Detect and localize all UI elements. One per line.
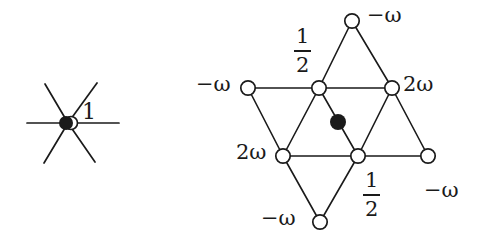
node-label-right-far: −ω: [424, 180, 459, 201]
node-label-bottom: −ω: [261, 208, 296, 229]
left-figure-label-one: 1: [82, 99, 96, 124]
edge-top-centerupper: [319, 21, 352, 88]
filled-dot-center: [330, 114, 346, 130]
node-label-top: −ω: [367, 5, 402, 26]
node-bottom: [313, 215, 327, 229]
node-center-lower: [351, 149, 365, 163]
right-figure-nodes: [241, 14, 435, 229]
half-lower-numerator: 1: [363, 170, 380, 191]
diagram-svg: [0, 0, 490, 244]
left-figure-group: [27, 83, 119, 163]
filled-node-left-figure: [59, 116, 73, 130]
node-label-left-lower: 2ω: [236, 142, 267, 163]
node-right-upper: [385, 81, 399, 95]
half-lower-denominator: 2: [363, 199, 380, 220]
node-label-half-upper: 1 2: [294, 26, 311, 76]
node-left: [241, 81, 255, 95]
figure-canvas: 1 −ω −ω 2ω 2ω −ω −ω 1 2 1 2: [0, 0, 490, 244]
edge-rightupper-centerlower: [358, 88, 392, 156]
node-left-lower: [276, 149, 290, 163]
node-center-upper: [312, 81, 326, 95]
edge-centerlower-bottom: [320, 156, 358, 222]
half-upper-bar: [294, 50, 311, 52]
half-upper-denominator: 2: [294, 55, 311, 76]
node-label-half-lower: 1 2: [363, 170, 380, 220]
node-label-left: −ω: [196, 74, 231, 95]
edge-top-rightupper: [352, 21, 392, 88]
node-top: [345, 14, 359, 28]
half-upper-numerator: 1: [294, 26, 311, 47]
node-right-far: [421, 149, 435, 163]
half-lower-bar: [363, 194, 380, 196]
edge-centerupper-leftlower: [283, 88, 319, 156]
edge-rightupper-rightfar: [392, 88, 428, 156]
node-label-right-upper: 2ω: [403, 74, 434, 95]
